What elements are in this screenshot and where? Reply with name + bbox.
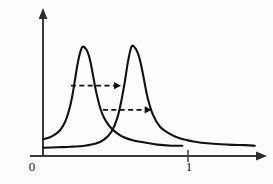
x-tick-label-1: 1 [186, 159, 193, 174]
plot-canvas: 0 1 [0, 0, 273, 184]
curve-group [43, 46, 255, 148]
shift-arrow-lower [103, 106, 152, 113]
resonance-curve-2 [43, 46, 255, 148]
tick-label-group: 0 1 [29, 159, 193, 174]
annotation-group [71, 82, 152, 113]
x-tick-label-0: 0 [29, 159, 36, 174]
resonance-shift-figure: 0 1 [0, 0, 273, 184]
x-axis-arrow-right-icon [256, 152, 267, 161]
axis-group [30, 8, 267, 162]
y-axis-arrow-up-icon [39, 8, 48, 19]
shift-arrow-upper-head-icon [114, 82, 121, 89]
